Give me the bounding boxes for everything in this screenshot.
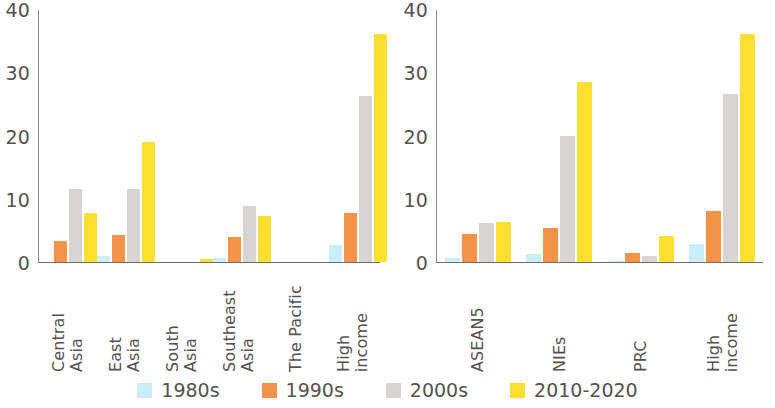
chart-panel-left: 010203040 CentralAsiaEastAsiaSouthAsiaSo… xyxy=(0,0,390,372)
category-label-word: Central xyxy=(49,276,66,372)
bar-group xyxy=(155,10,213,262)
plot-area-right xyxy=(436,10,763,263)
chart-legend: 1980s1990s2000s2010-2020 xyxy=(0,373,775,408)
bar-groups-right xyxy=(437,10,763,262)
category-label-slot: PRC xyxy=(600,272,682,372)
category-label-word: Asia xyxy=(238,338,255,372)
y-axis-tick-label: 10 xyxy=(403,190,428,209)
category-label: PRC xyxy=(632,276,649,372)
category-label: EastAsia xyxy=(106,276,141,372)
bar xyxy=(142,142,155,262)
category-label-slot: SouthAsia xyxy=(152,272,209,372)
bar xyxy=(213,258,226,262)
bar xyxy=(112,235,125,262)
y-axis-tick-label: 40 xyxy=(403,1,428,20)
bar xyxy=(329,245,342,262)
y-axis-tick-label: 20 xyxy=(403,127,428,146)
bar-group xyxy=(213,10,271,262)
category-label-word: South xyxy=(163,276,180,372)
category-label: Highincome xyxy=(334,276,369,372)
legend-label: 2010-2020 xyxy=(534,381,638,400)
bar xyxy=(84,213,97,262)
y-axis-tick-label: 20 xyxy=(5,127,30,146)
y-axis-tick-label: 40 xyxy=(5,1,30,20)
legend-item[interactable]: 2010-2020 xyxy=(510,381,638,400)
category-label-word: High xyxy=(334,276,351,372)
category-label-slot: EastAsia xyxy=(95,272,152,372)
category-label: ASEAN5 xyxy=(468,276,485,372)
category-label-word: income xyxy=(723,313,740,372)
bar-group xyxy=(437,10,519,262)
chart-panels: 010203040 CentralAsiaEastAsiaSouthAsiaSo… xyxy=(0,0,775,372)
category-label-slot: Highincome xyxy=(323,272,380,372)
category-label-word: ASEAN5 xyxy=(468,276,485,372)
bar xyxy=(526,254,541,262)
chart-panel-right: 010203040 ASEAN5NIEsPRCHighincome xyxy=(390,0,775,372)
bar xyxy=(462,234,477,262)
category-label-word: PRC xyxy=(632,276,649,372)
legend-swatch-icon xyxy=(386,383,401,398)
x-axis-category-labels-right: ASEAN5NIEsPRCHighincome xyxy=(436,272,763,372)
bar xyxy=(374,34,387,262)
category-label: SouthAsia xyxy=(163,276,198,372)
bar-group xyxy=(519,10,601,262)
bar-group xyxy=(329,10,387,262)
category-label-slot: SoutheastAsia xyxy=(209,272,266,372)
category-label-slot: Highincome xyxy=(681,272,763,372)
legend-label: 1980s xyxy=(161,381,219,400)
bar xyxy=(228,237,241,262)
bar xyxy=(577,82,592,262)
bar xyxy=(200,259,213,262)
category-label-row-right: ASEAN5NIEsPRCHighincome xyxy=(436,272,763,372)
y-axis-tick-label: 0 xyxy=(416,254,428,273)
category-label-word: NIEs xyxy=(550,276,567,372)
bar xyxy=(560,136,575,263)
legend-swatch-icon xyxy=(262,383,277,398)
bar xyxy=(54,241,67,262)
bar xyxy=(69,189,82,262)
category-label-word: Asia xyxy=(124,338,141,372)
category-label-slot: NIEs xyxy=(518,272,600,372)
category-label-slot: The Pacific xyxy=(266,272,323,372)
bar xyxy=(496,222,511,262)
y-axis-tick-labels-left: 010203040 xyxy=(0,0,34,272)
legend-swatch-icon xyxy=(510,383,525,398)
legend-label: 2000s xyxy=(410,381,468,400)
bar xyxy=(127,189,140,262)
y-axis-tick-label: 10 xyxy=(5,190,30,209)
legend-item[interactable]: 1980s xyxy=(137,381,219,400)
bar-group xyxy=(39,10,97,262)
category-label-word: Southeast xyxy=(220,276,237,372)
category-label: NIEs xyxy=(550,276,567,372)
plot-area-left xyxy=(38,10,380,263)
bar xyxy=(723,94,738,262)
bar xyxy=(642,256,657,262)
bar-group xyxy=(271,10,329,262)
legend-item[interactable]: 1990s xyxy=(262,381,344,400)
legend-label: 1990s xyxy=(286,381,344,400)
bar xyxy=(740,34,755,262)
bar-group xyxy=(600,10,682,262)
category-label: CentralAsia xyxy=(49,276,84,372)
y-axis-tick-label: 30 xyxy=(5,64,30,83)
bar xyxy=(706,211,721,262)
bar xyxy=(243,206,256,262)
category-label-word: East xyxy=(106,276,123,372)
bar-group xyxy=(97,10,155,262)
x-axis-category-labels-left: CentralAsiaEastAsiaSouthAsiaSoutheastAsi… xyxy=(38,272,380,372)
y-axis-tick-label: 30 xyxy=(403,64,428,83)
category-label-slot: ASEAN5 xyxy=(436,272,518,372)
bar xyxy=(625,253,640,262)
bar xyxy=(258,216,271,262)
category-label-row-left: CentralAsiaEastAsiaSouthAsiaSoutheastAsi… xyxy=(38,272,380,372)
category-label: The Pacific xyxy=(286,276,303,372)
bar-groups-left xyxy=(39,10,380,262)
category-label: SoutheastAsia xyxy=(220,276,255,372)
category-label: Highincome xyxy=(705,276,740,372)
bar xyxy=(543,228,558,262)
bar xyxy=(344,213,357,262)
legend-item[interactable]: 2000s xyxy=(386,381,468,400)
bar-group xyxy=(682,10,764,262)
bar xyxy=(689,244,704,262)
plot-axis-area-right: 010203040 xyxy=(390,0,775,272)
